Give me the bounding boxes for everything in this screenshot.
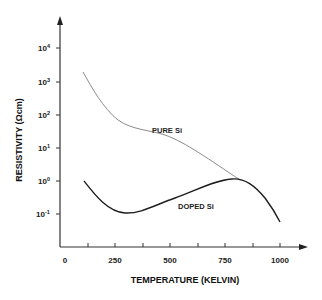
svg-text:103: 103 <box>38 77 50 87</box>
resistivity-chart: 104 103 102 101 100 10-1 0 250 500 750 1… <box>0 0 322 300</box>
doped-si-label: DOPED Si <box>178 202 214 211</box>
doped-si-curve <box>84 179 280 222</box>
y-axis-title: RESISTIVITY (Ωcm) <box>14 98 24 182</box>
svg-text:102: 102 <box>38 110 50 120</box>
svg-text:750: 750 <box>218 256 232 265</box>
x-tick-labels: 0 250 500 750 1000 <box>63 256 290 265</box>
svg-text:10-1: 10-1 <box>36 209 50 219</box>
x-axis-title: TEMPERATURE (KELVIN) <box>131 275 240 285</box>
svg-text:500: 500 <box>163 256 177 265</box>
svg-text:1000: 1000 <box>271 256 289 265</box>
pure-si-label: PURE Si <box>152 126 182 135</box>
axes <box>60 22 305 247</box>
y-axis-arrow-icon <box>57 16 63 25</box>
svg-text:101: 101 <box>38 143 50 153</box>
x-axis-arrow-icon <box>299 244 308 250</box>
svg-text:104: 104 <box>38 43 51 53</box>
svg-text:250: 250 <box>108 256 122 265</box>
svg-text:100: 100 <box>38 176 50 186</box>
y-tick-labels: 104 103 102 101 100 10-1 <box>36 43 51 219</box>
svg-text:0: 0 <box>63 256 68 265</box>
